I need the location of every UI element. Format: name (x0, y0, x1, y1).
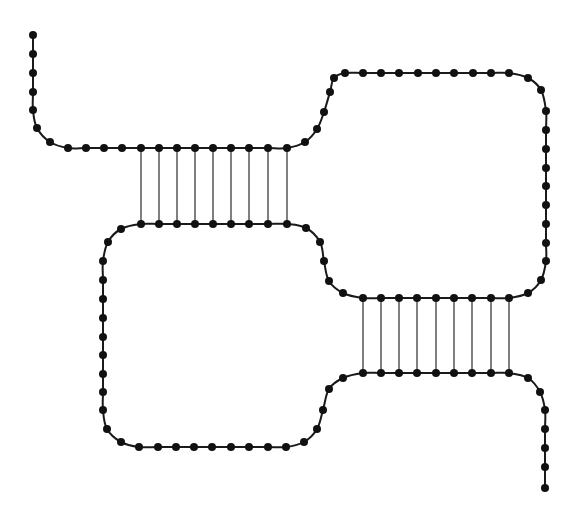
nucleotide-dot (359, 294, 367, 302)
nucleotide-dot (377, 294, 385, 302)
nucleotide-dot (469, 69, 477, 77)
nucleotide-dot (208, 443, 216, 451)
nucleotide-dot (155, 220, 163, 228)
nucleotide-dot (542, 201, 550, 209)
nucleotide-dot (173, 220, 181, 228)
nucleotide-dot (325, 277, 333, 285)
nucleotide-dot (413, 369, 421, 377)
nucleotide-dot (227, 220, 235, 228)
nucleotide-dot (227, 443, 235, 451)
nucleotide-dot (301, 138, 309, 146)
nucleotide-dot (432, 69, 440, 77)
nucleotide-dot (541, 463, 549, 471)
nucleotide-dot (319, 406, 327, 414)
nucleotide-dot (316, 238, 324, 246)
nucleotide-dot (326, 88, 334, 96)
nucleotide-dot (505, 69, 513, 77)
nucleotide-dot (33, 124, 41, 132)
nucleotide-dot (542, 164, 550, 172)
nucleotide-dot (339, 374, 347, 382)
nucleotide-dot (341, 69, 349, 77)
nucleotide-nodes (29, 31, 550, 492)
nucleotide-dot (377, 369, 385, 377)
nucleotide-dot (487, 69, 495, 77)
nucleotide-dot (172, 443, 180, 451)
nucleotide-dot (117, 438, 125, 446)
nucleotide-dot (505, 294, 513, 302)
nucleotide-dot (100, 144, 108, 152)
nucleotide-dot (29, 106, 37, 114)
nucleotide-dot (541, 425, 549, 433)
nucleotide-dot (154, 443, 162, 451)
nucleotide-dot (313, 125, 321, 133)
nucleotide-dot (541, 444, 549, 452)
nucleotide-dot (542, 239, 550, 247)
nucleotide-dot (300, 438, 308, 446)
nucleotide-dot (537, 86, 545, 94)
nucleotide-dot (282, 443, 290, 451)
nucleotide-dot (104, 238, 112, 246)
nucleotide-dot (505, 369, 513, 377)
nucleotide-dot (191, 144, 199, 152)
backbone-strand (33, 35, 547, 488)
nucleotide-dot (450, 69, 458, 77)
nucleotide-dot (245, 220, 253, 228)
nucleotide-dot (29, 50, 37, 58)
nucleotide-dot (99, 295, 107, 303)
nucleotide-dot (395, 294, 403, 302)
nucleotide-dot (541, 406, 549, 414)
nucleotide-dot (432, 294, 440, 302)
nucleotide-dot (487, 294, 495, 302)
nucleotide-dot (339, 289, 347, 297)
nucleotide-dot (320, 257, 328, 265)
nucleotide-dot (209, 220, 217, 228)
nucleotide-dot (190, 443, 198, 451)
nucleotide-dot (264, 443, 272, 451)
nucleotide-dot (137, 220, 145, 228)
nucleotide-dot (117, 225, 125, 233)
nucleotide-dot (283, 220, 291, 228)
nucleotide-dot (414, 69, 422, 77)
nucleotide-dot (173, 144, 181, 152)
nucleotide-dot (330, 74, 338, 82)
nucleotide-dot (450, 369, 458, 377)
nucleotide-dot (468, 369, 476, 377)
nucleotide-dot (118, 144, 126, 152)
nucleotide-dot (99, 276, 107, 284)
nucleotide-dot (537, 276, 545, 284)
nucleotide-dot (99, 406, 107, 414)
nucleotide-dot (313, 425, 321, 433)
nucleotide-dot (359, 369, 367, 377)
nucleotide-dot (64, 144, 72, 152)
rna-structure-diagram (0, 0, 581, 511)
nucleotide-dot (29, 69, 37, 77)
nucleotide-dot (432, 369, 440, 377)
nucleotide-dot (413, 294, 421, 302)
nucleotide-dot (155, 144, 163, 152)
nucleotide-dot (359, 69, 367, 77)
nucleotide-dot (541, 484, 549, 492)
nucleotide-dot (542, 257, 550, 265)
nucleotide-dot (542, 126, 550, 134)
nucleotide-dot (264, 220, 272, 228)
nucleotide-dot (283, 144, 291, 152)
nucleotide-dot (536, 388, 544, 396)
nucleotide-dot (99, 257, 107, 265)
nucleotide-dot (99, 370, 107, 378)
nucleotide-dot (542, 182, 550, 190)
nucleotide-dot (264, 144, 272, 152)
nucleotide-dot (29, 31, 37, 39)
nucleotide-dot (468, 294, 476, 302)
nucleotide-dot (377, 69, 385, 77)
nucleotide-dot (524, 289, 532, 297)
nucleotide-dot (395, 69, 403, 77)
nucleotide-dot (209, 144, 217, 152)
nucleotide-dot (103, 425, 111, 433)
nucleotide-dot (450, 294, 458, 302)
nucleotide-dot (46, 138, 54, 146)
nucleotide-dot (487, 369, 495, 377)
nucleotide-dot (302, 224, 310, 232)
nucleotide-dot (542, 145, 550, 153)
nucleotide-dot (99, 351, 107, 359)
nucleotide-dot (29, 88, 37, 96)
